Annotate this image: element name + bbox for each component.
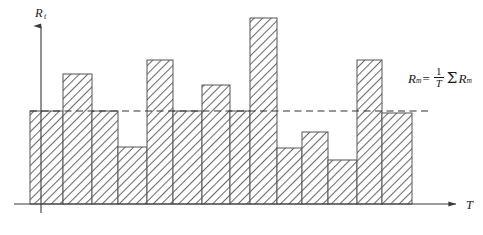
bar bbox=[328, 160, 357, 204]
fraction-denominator: T bbox=[434, 78, 444, 90]
y-axis-label-subscript: t bbox=[44, 12, 47, 21]
bar bbox=[302, 132, 328, 204]
chart-svg: R t T bbox=[0, 0, 483, 235]
x-axis-label: T bbox=[466, 198, 474, 212]
bar bbox=[118, 147, 147, 204]
formula-variable: R bbox=[408, 72, 416, 85]
formula-fraction: 1 T bbox=[434, 66, 444, 90]
bar bbox=[382, 113, 412, 204]
bar bbox=[202, 85, 230, 204]
formula-equals: = bbox=[422, 72, 429, 85]
bar bbox=[30, 111, 63, 204]
formula-sum-variable-subscript: m bbox=[466, 77, 471, 85]
bar bbox=[92, 111, 118, 204]
bar bbox=[63, 74, 92, 204]
mean-formula-annotation: Rm = 1 T ΣRm bbox=[408, 66, 472, 90]
bar bbox=[357, 60, 382, 204]
fraction-numerator: 1 bbox=[434, 66, 444, 78]
bar bbox=[230, 111, 250, 204]
bar bbox=[173, 111, 202, 204]
summation-sigma-icon: Σ bbox=[447, 71, 458, 86]
bar bbox=[277, 148, 302, 204]
formula-sum-variable: R bbox=[458, 72, 466, 85]
y-axis-label: R bbox=[34, 6, 43, 20]
bar bbox=[147, 60, 173, 204]
bar-chart-figure: R t T Rm = 1 T ΣRm bbox=[0, 0, 483, 235]
formula-variable-subscript: m bbox=[416, 77, 421, 85]
